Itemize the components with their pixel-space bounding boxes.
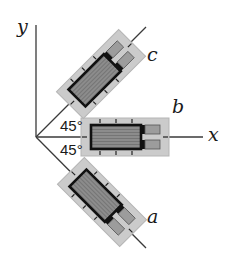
gauge-b-label: b [172, 97, 184, 116]
gauge-a [57, 157, 146, 246]
gauge-b [81, 118, 169, 156]
upper-angle-label: 45° [60, 118, 83, 133]
rosette-diagram [0, 0, 229, 267]
gauge-c-label: c [147, 45, 158, 64]
x-axis-label: x [208, 125, 219, 144]
gauge-a-label: a [147, 207, 158, 226]
lower-angle-label: 45° [60, 142, 83, 157]
gauge-c [56, 29, 145, 118]
y-axis-label: y [17, 17, 28, 36]
